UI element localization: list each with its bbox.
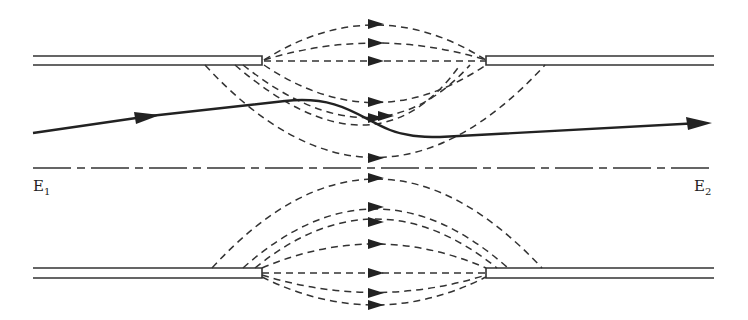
field-lines [205,25,545,305]
trajectory-arrow-2 [686,117,712,130]
upper-left-electrode [33,56,262,65]
lens-diagram [0,0,748,320]
label-e1: E1 [33,177,50,197]
label-e2: E2 [694,177,711,197]
lower-left-electrode [33,268,262,278]
diagram-canvas: E1 E2 [0,0,748,320]
lower-right-electrode [486,268,714,278]
trajectory-arrow-1 [134,112,160,124]
field-arrowheads [368,19,394,310]
upper-right-electrode [486,56,714,65]
electron-trajectory [33,100,700,137]
